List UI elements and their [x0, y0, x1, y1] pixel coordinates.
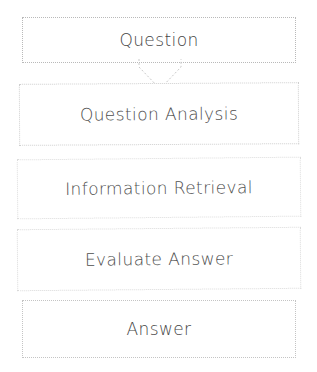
flow-node-label: Evaluate Answer: [85, 250, 233, 268]
flow-node-label: Question Analysis: [80, 105, 238, 123]
flow-node-information-retrieval[interactable]: Information Retrieval: [17, 157, 302, 220]
flow-node-label: Information Retrieval: [65, 179, 253, 198]
flow-node-evaluate-answer[interactable]: Evaluate Answer: [17, 227, 302, 291]
flow-node-label: Question: [119, 32, 198, 49]
flow-node-answer[interactable]: Answer: [22, 300, 296, 358]
flow-node-label: Answer: [126, 321, 191, 338]
flowchart-canvas: Question Question Analysis Information R…: [0, 0, 317, 372]
flow-node-question[interactable]: Question: [22, 17, 296, 63]
flow-node-question-analysis[interactable]: Question Analysis: [19, 82, 299, 146]
